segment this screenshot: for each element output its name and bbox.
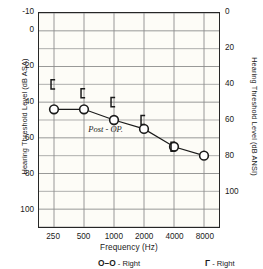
data-point-circle <box>80 105 89 114</box>
data-point-circle <box>50 105 59 114</box>
y2-tick-label: 0 <box>225 7 251 16</box>
y-tick-label: -10 <box>8 7 34 16</box>
y2-tick-label: 100 <box>225 187 251 196</box>
data-point-circle <box>140 125 149 134</box>
air-conduction-series <box>50 105 209 160</box>
legend-item-air-conduction: O–O - Right <box>98 258 140 268</box>
legend-air-label: - Right <box>118 259 140 268</box>
air-conduction-line <box>54 109 204 155</box>
bracket-marker-icon: Γ <box>205 258 210 268</box>
annotation-post-op: Post - OP. <box>87 124 123 134</box>
x-tick-label: 8000 <box>185 232 225 241</box>
chart-legend: O–O - Right Γ - Right <box>0 258 263 269</box>
y-tick-label: 0 <box>8 25 34 34</box>
y-tick-label: 40 <box>8 97 34 106</box>
plot-svg: Post - OP. <box>39 13 219 227</box>
gridlines <box>39 13 219 227</box>
legend-item-bone-conduction: Γ - Right <box>205 258 235 268</box>
y2-tick-label: 80 <box>225 151 251 160</box>
y2-tick-label: 40 <box>225 79 251 88</box>
plot-area: Post - OP. <box>38 12 220 228</box>
y2-tick-label: 20 <box>225 43 251 52</box>
y-tick-label: 60 <box>8 133 34 142</box>
legend-bone-label: - Right <box>212 259 234 268</box>
circle-marker-icon: O–O <box>98 258 116 268</box>
data-point-circle <box>110 116 119 125</box>
y-tick-label: 80 <box>8 169 34 178</box>
x-axis-title: Frequency (Hz) <box>38 243 220 252</box>
y-tick-label: 20 <box>8 61 34 70</box>
data-point-circle <box>200 151 209 160</box>
y-tick-label: 100 <box>8 205 34 214</box>
y2-tick-label: 60 <box>225 115 251 124</box>
audiogram-chart: Hearing Threshold Level (dB ASA) Hearing… <box>0 0 263 269</box>
